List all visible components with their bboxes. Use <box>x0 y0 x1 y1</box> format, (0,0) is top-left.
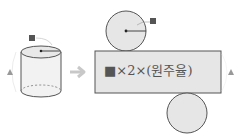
arrow-icon <box>70 67 84 77</box>
radius-marker <box>29 35 35 41</box>
cylinder <box>12 38 61 97</box>
bottom-base-circle <box>167 93 207 133</box>
top-base-circle <box>106 11 150 51</box>
lateral-area-formula: ■×2×(원주율) <box>104 60 192 79</box>
radius-marker-net <box>150 18 156 24</box>
height-marker-net <box>228 69 234 75</box>
